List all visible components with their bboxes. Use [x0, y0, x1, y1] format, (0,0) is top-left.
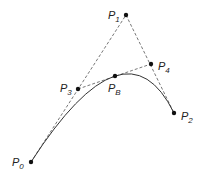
point-label: PB [108, 82, 121, 97]
point-p4: P4 [149, 60, 171, 75]
control-points: P0P1P2P3P4PB [12, 9, 193, 171]
point-p3: P3 [60, 82, 80, 97]
bezier-diagram: P0P1P2P3P4PB [0, 0, 203, 175]
point-p2: P2 [172, 110, 194, 125]
point-marker [29, 160, 33, 164]
point-label: P3 [60, 82, 72, 97]
point-p1: P1 [108, 9, 128, 24]
point-label: P4 [158, 60, 170, 75]
point-pb: PB [108, 74, 121, 97]
point-label: P1 [108, 9, 120, 24]
point-marker [124, 13, 128, 17]
construction-lines [31, 15, 174, 162]
point-marker [113, 74, 117, 78]
point-marker [76, 87, 80, 91]
point-label: P0 [12, 156, 24, 171]
bezier-curve [31, 74, 174, 162]
point-marker [172, 111, 176, 115]
point-label: P2 [181, 110, 193, 125]
point-marker [149, 62, 153, 66]
point-p0: P0 [12, 156, 33, 171]
